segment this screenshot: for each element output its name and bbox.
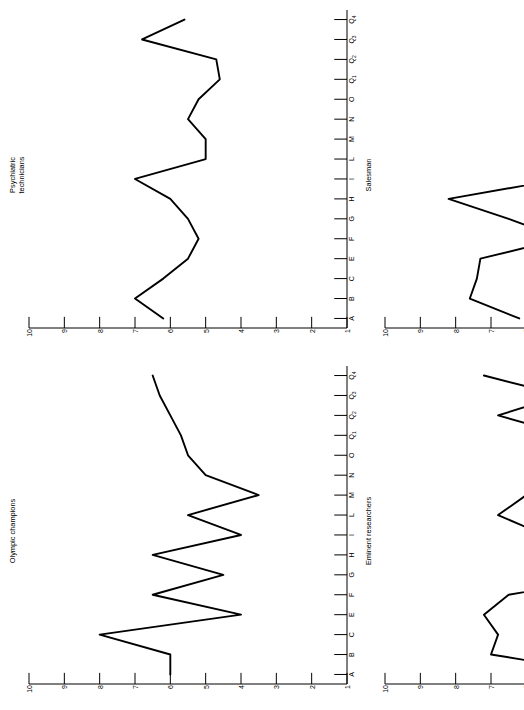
x-axis-tick-label: E <box>348 256 356 261</box>
plot-canvas <box>385 10 524 328</box>
y-axis-tick-label: 4 <box>238 329 245 333</box>
x-axis-tick-label: C <box>348 632 356 637</box>
y-axis-tick-label: 9 <box>61 685 68 689</box>
chart-grid: Olympic champions 10987654321 ABCEFGHILM… <box>8 10 524 696</box>
x-axis-tick-label: Q3 <box>348 391 357 399</box>
y-axis-tick-label: 7 <box>132 685 139 689</box>
chart-title: Olympic champions <box>8 366 28 696</box>
y-axis-tick-label: 1 <box>344 329 351 333</box>
x-axis-tick-label: H <box>348 196 356 201</box>
x-axis-labels: ABCEFGHILMNOQ1Q2Q3Q4 <box>347 10 358 328</box>
y-axis-tick-label: 10 <box>26 685 33 693</box>
figure-16pf-profiles: Olympic champions 10987654321 ABCEFGHILM… <box>0 0 524 710</box>
y-axis-tick-label: 5 <box>202 329 209 333</box>
rotated-figure-wrapper: Olympic champions 10987654321 ABCEFGHILM… <box>0 0 524 710</box>
chart-panel-salesman: Salesman 10987654321 ABCEFGHILMNOQ1Q2Q3Q… <box>364 10 524 340</box>
x-axis-tick-label: Q2 <box>348 411 357 419</box>
y-axis-tick-label: 1 <box>344 685 351 689</box>
y-axis-labels: 10987654321 <box>385 684 524 696</box>
data-line <box>484 376 524 675</box>
plot-area: 10987654321 <box>29 10 347 340</box>
x-axis-tick-label: Q3 <box>348 35 357 43</box>
x-axis-tick-label: Q2 <box>348 55 357 63</box>
x-axis-tick-label: G <box>348 572 356 577</box>
y-axis-tick-label: 10 <box>382 329 389 337</box>
x-axis-tick-label: L <box>348 157 356 161</box>
y-axis-tick-label: 8 <box>96 685 103 689</box>
x-axis-tick-label: L <box>348 513 356 517</box>
y-axis-tick-label: 9 <box>61 329 68 333</box>
x-axis-tick-label: F <box>348 237 356 241</box>
x-axis-tick-label: E <box>348 612 356 617</box>
plot-area: 10987654321 <box>29 366 347 696</box>
x-axis-tick-label: I <box>348 178 356 180</box>
y-axis-tick-label: 7 <box>132 329 139 333</box>
x-axis-tick-label: Q4 <box>348 15 357 23</box>
x-axis-tick-label: I <box>348 534 356 536</box>
x-axis-tick-label: M <box>348 492 356 498</box>
plot-area: 10987654321 <box>385 366 524 696</box>
y-axis-tick-label: 9 <box>417 685 424 689</box>
y-axis-tick-label: 2 <box>308 329 315 333</box>
x-axis-tick-label: B <box>348 652 356 657</box>
x-axis-tick-label: N <box>348 117 356 122</box>
data-line <box>100 376 259 675</box>
x-axis-tick-label: M <box>348 136 356 142</box>
data-line <box>135 20 220 319</box>
x-axis-tick-label: F <box>348 593 356 597</box>
x-axis-tick-label: G <box>348 216 356 221</box>
line-chart-svg <box>385 10 524 328</box>
x-axis-tick-label: Q4 <box>348 371 357 379</box>
y-axis-labels: 10987654321 <box>29 328 347 340</box>
plot-canvas <box>29 366 347 684</box>
y-axis-tick-label: 7 <box>488 685 495 689</box>
y-axis-labels: 10987654321 <box>385 328 524 340</box>
y-axis-tick-label: 10 <box>26 329 33 337</box>
x-axis-tick-label: A <box>348 316 356 321</box>
x-axis-tick-label: Q1 <box>348 75 357 83</box>
line-chart-svg <box>29 10 347 328</box>
chart-title: Psychiatric technicians <box>8 10 28 340</box>
y-axis-tick-label: 7 <box>488 329 495 333</box>
x-axis-tick-label: O <box>348 97 356 102</box>
y-axis-tick-label: 8 <box>96 329 103 333</box>
y-axis-tick-label: 6 <box>167 329 174 333</box>
y-axis-tick-label: 6 <box>167 685 174 689</box>
y-axis-tick-label: 3 <box>273 329 280 333</box>
chart-title: Eminent researchers <box>364 366 384 696</box>
x-axis-tick-label: N <box>348 473 356 478</box>
y-axis-tick-label: 2 <box>308 685 315 689</box>
chart-panel-eminent-researchers: Eminent researchers 10987654321 ABCEFGHI… <box>364 366 524 696</box>
y-axis-tick-label: 4 <box>238 685 245 689</box>
y-axis-tick-label: 9 <box>417 329 424 333</box>
x-axis-tick-label: O <box>348 453 356 458</box>
plot-canvas <box>385 366 524 684</box>
data-line <box>449 20 524 319</box>
chart-title: Salesman <box>364 10 384 340</box>
chart-panel-olympic-champions: Olympic champions 10987654321 ABCEFGHILM… <box>8 366 358 696</box>
y-axis-labels: 10987654321 <box>29 684 347 696</box>
x-axis-tick-label: A <box>348 672 356 677</box>
x-axis-tick-label: H <box>348 552 356 557</box>
y-axis-tick-label: 10 <box>382 685 389 693</box>
chart-panel-psychiatric-technicians: Psychiatric technicians 10987654321 ABCE… <box>8 10 358 340</box>
x-axis-labels: ABCEFGHILMNOQ1Q2Q3Q4 <box>347 366 358 684</box>
y-axis-tick-label: 8 <box>452 329 459 333</box>
plot-area: 10987654321 <box>385 10 524 340</box>
line-chart-svg <box>29 366 347 684</box>
line-chart-svg <box>385 366 524 684</box>
y-axis-tick-label: 3 <box>273 685 280 689</box>
x-axis-tick-label: B <box>348 296 356 301</box>
y-axis-tick-label: 5 <box>202 685 209 689</box>
plot-canvas <box>29 10 347 328</box>
x-axis-tick-label: C <box>348 276 356 281</box>
y-axis-tick-label: 8 <box>452 685 459 689</box>
x-axis-tick-label: Q1 <box>348 431 357 439</box>
